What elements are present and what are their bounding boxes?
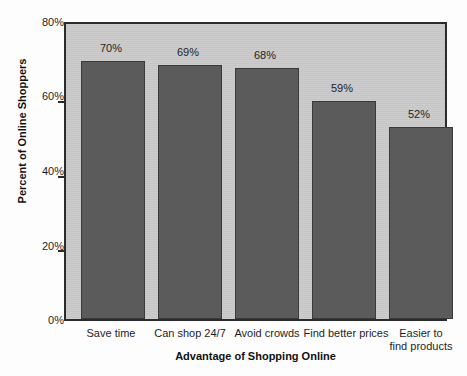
y-axis-tick-labels: 80% 60% 40% 20% 0% <box>0 0 64 376</box>
x-axis-category-line: Can shop 24/7 <box>146 327 234 340</box>
bar-find-better-prices <box>312 101 376 319</box>
bar-save-time <box>81 61 145 319</box>
bar-value-label: 68% <box>233 49 297 61</box>
x-axis-category-line: Avoid crowds <box>227 327 307 340</box>
bar-chart: 80% 60% 40% 20% 0% Percent of Online Sho… <box>0 0 467 376</box>
bar-value-label: 69% <box>156 46 220 58</box>
x-axis-category-line: Easier to <box>381 327 461 340</box>
x-axis-title: Advantage of Shopping Online <box>64 350 447 362</box>
bar-value-label: 59% <box>310 82 374 94</box>
bar-avoid-crowds <box>235 68 299 319</box>
y-axis-tick-label: 0% <box>16 314 64 326</box>
y-axis-tick-label: 20% <box>16 240 64 252</box>
x-axis-category-line: Save time <box>71 327 151 340</box>
y-axis-title: Percent of Online Shoppers <box>16 41 28 221</box>
bar-value-label: 52% <box>387 108 451 120</box>
x-axis-category-label: Can shop 24/7 <box>146 327 234 340</box>
bar-can-shop-247 <box>158 65 222 319</box>
y-axis-tick-label: 80% <box>16 16 64 28</box>
bar-value-label: 70% <box>79 42 143 54</box>
x-axis-category-label: Avoid crowds <box>227 327 307 340</box>
x-axis-category-label: Save time <box>71 327 151 340</box>
bar-easier-to-find <box>389 127 453 319</box>
plot-area <box>64 22 447 321</box>
